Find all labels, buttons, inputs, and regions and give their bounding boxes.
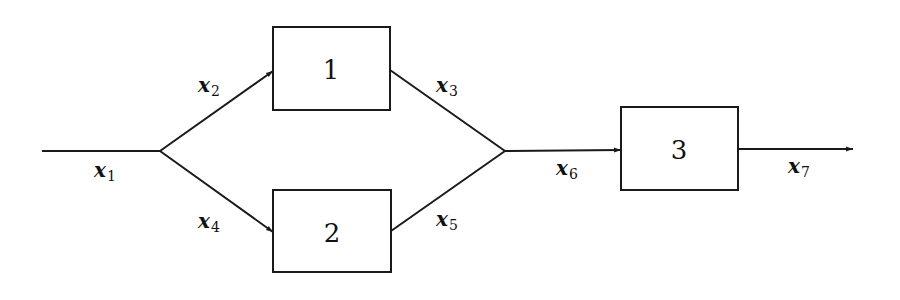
label-x6: x6 [555,156,578,182]
block-1-label: 1 [323,55,340,85]
block-1: 1 [273,27,390,110]
label-x7: x7 [787,154,810,180]
block-2: 2 [273,190,391,272]
block-3: 3 [621,107,738,190]
signal-x6-arrow [505,150,621,151]
block-diagram: 1 2 3 x1 x2 x3 x4 x5 x6 x7 [0,0,900,300]
label-x4: x4 [197,209,220,235]
label-x3: x3 [435,73,458,99]
label-x5: x5 [435,207,458,233]
block-3-label: 3 [671,135,688,165]
label-x1: x1 [93,158,116,184]
label-x2: x2 [197,73,220,99]
block-2-label: 2 [324,218,341,248]
